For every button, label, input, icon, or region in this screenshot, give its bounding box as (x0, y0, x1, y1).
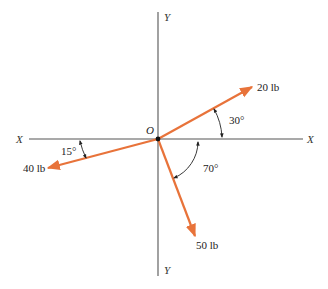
origin-label: O (146, 124, 154, 136)
force-50lb-label: 50 lb (196, 239, 219, 251)
angle-70-label: 70° (203, 162, 218, 174)
angle-30-label: 30° (229, 114, 244, 126)
force-40lb-label: 40 lb (23, 162, 46, 174)
y-axis-top-label: Y (164, 11, 172, 23)
angle-30-arc (214, 109, 222, 137)
force-20lb-arrow (158, 87, 252, 139)
origin-point (156, 137, 161, 142)
diagram-svg: X X Y Y O 20 lb 40 lb 50 lb 30° 15° 70° (0, 0, 328, 289)
angle-15-arc (80, 141, 86, 158)
angle-70-arc (174, 142, 198, 178)
x-axis-left-label: X (15, 133, 24, 145)
force-diagram: X X Y Y O 20 lb 40 lb 50 lb 30° 15° 70° (0, 0, 328, 289)
force-20lb-label: 20 lb (257, 81, 280, 93)
x-axis-right-label: X (306, 133, 315, 145)
force-50lb-arrow (158, 139, 195, 236)
angle-15-label: 15° (61, 145, 76, 157)
y-axis-bottom-label: Y (164, 264, 172, 276)
